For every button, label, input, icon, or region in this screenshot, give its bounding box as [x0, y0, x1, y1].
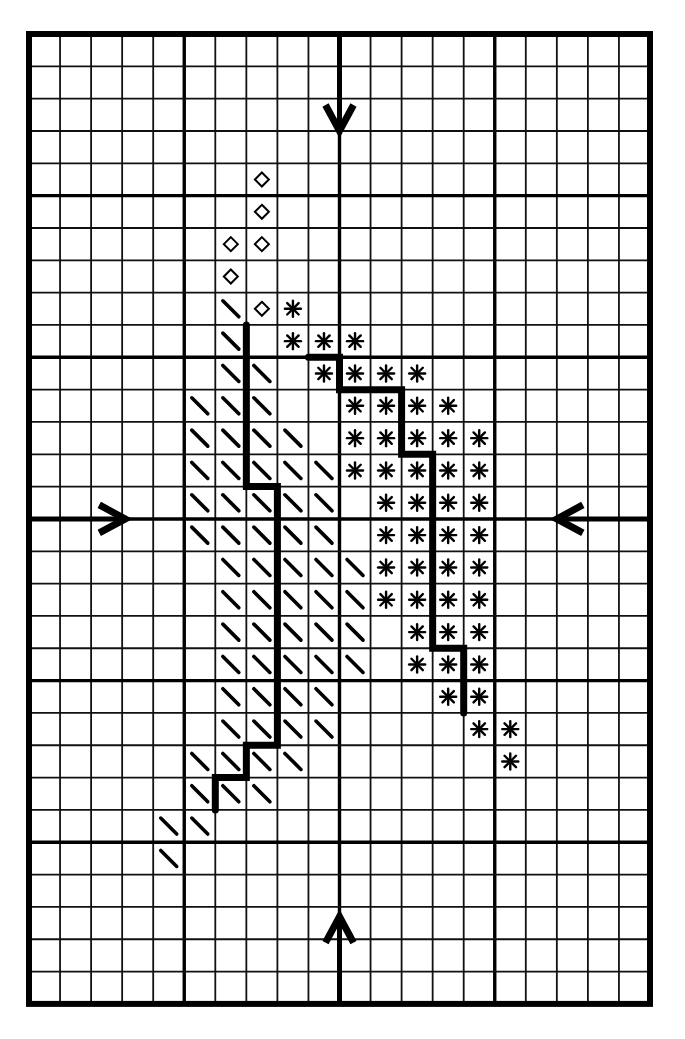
asterisk-stitch-icon [285, 333, 301, 349]
asterisk-stitch-icon [409, 495, 425, 511]
asterisk-stitch-icon [471, 592, 487, 608]
asterisk-stitch-icon [471, 656, 487, 672]
backslash-stitch-icon [223, 721, 239, 737]
backslash-stitch-icon [347, 559, 363, 575]
backslash-stitch-icon [223, 624, 239, 640]
asterisk-stitch-icon [378, 592, 394, 608]
asterisk-stitch-icon [471, 527, 487, 543]
backslash-stitch-icon [285, 527, 301, 543]
backslash-stitch-icon [223, 753, 239, 769]
backslash-stitch-icon [254, 559, 270, 575]
backslash-stitch-icon [254, 753, 270, 769]
backslash-stitch-icon [285, 559, 301, 575]
asterisk-stitch-icon [378, 365, 394, 381]
asterisk-stitch-icon [440, 656, 456, 672]
backslash-stitch-icon [316, 656, 332, 672]
asterisk-stitch-icon [409, 559, 425, 575]
backslash-stitch-icon [223, 592, 239, 608]
backslash-stitch-icon [192, 430, 208, 446]
asterisk-stitch-icon [409, 430, 425, 446]
backslash-stitch-icon [254, 786, 270, 802]
backslash-stitch-icon [254, 495, 270, 511]
asterisk-stitch-icon [378, 398, 394, 414]
backslash-stitch-icon [316, 559, 332, 575]
backslash-stitch-icon [192, 462, 208, 478]
asterisk-stitch-icon [440, 689, 456, 705]
asterisk-stitch-icon [347, 365, 363, 381]
backslash-stitch-icon [316, 689, 332, 705]
backslash-stitch-icon [254, 689, 270, 705]
asterisk-stitch-icon [347, 430, 363, 446]
diamond-stitch-icon [224, 269, 238, 283]
backslash-stitch-icon [223, 462, 239, 478]
asterisk-stitch-icon [285, 301, 301, 317]
backslash-stitch-icon [316, 721, 332, 737]
backslash-stitch-icon [285, 689, 301, 705]
asterisk-stitch-icon [471, 430, 487, 446]
asterisk-stitch-icon [471, 559, 487, 575]
backslash-stitch-icon [192, 398, 208, 414]
backslash-stitch-icon [254, 721, 270, 737]
asterisk-stitch-icon [440, 624, 456, 640]
asterisk-stitch-icon [409, 462, 425, 478]
asterisk-stitch-icon [409, 624, 425, 640]
asterisk-stitch-icon [502, 753, 518, 769]
backslash-stitch-icon [316, 592, 332, 608]
asterisk-stitch-icon [316, 333, 332, 349]
asterisk-stitch-icon [440, 592, 456, 608]
asterisk-stitch-icon [409, 656, 425, 672]
backslash-stitch-icon [254, 430, 270, 446]
asterisk-stitch-icon [471, 721, 487, 737]
backslash-stitch-icon [285, 624, 301, 640]
right-center-arrow-icon [557, 505, 650, 533]
backslash-stitch-icon [347, 656, 363, 672]
backslash-stitch-icon [223, 656, 239, 672]
backslash-stitch-icon [223, 786, 239, 802]
asterisk-stitch-icon [440, 495, 456, 511]
backslash-stitch-icon [285, 656, 301, 672]
backslash-stitch-icon [254, 656, 270, 672]
backslash-stitch-icon [316, 495, 332, 511]
asterisk-stitch-icon [378, 430, 394, 446]
backslash-stitch-icon [254, 398, 270, 414]
backslash-stitch-icon [316, 527, 332, 543]
backslash-stitch-icon [254, 527, 270, 543]
asterisk-stitch-icon [378, 462, 394, 478]
backslash-stitch-icon [192, 753, 208, 769]
asterisk-stitch-icon [471, 689, 487, 705]
diamond-stitch-icon [255, 302, 269, 316]
backslash-stitch-icon [254, 365, 270, 381]
diamond-stitch-icon [255, 172, 269, 186]
bottom-center-arrow-icon [326, 917, 354, 1004]
backslash-stitch-icon [223, 689, 239, 705]
asterisk-stitch-icon [409, 398, 425, 414]
asterisk-stitch-icon [316, 365, 332, 381]
asterisk-stitch-icon [347, 398, 363, 414]
backslash-stitch-icon [223, 333, 239, 349]
asterisk-stitch-icon [440, 462, 456, 478]
asterisk-stitch-icon [378, 495, 394, 511]
backslash-stitch-icon [347, 592, 363, 608]
asterisk-stitch-icon [409, 527, 425, 543]
backslash-stitch-icon [254, 462, 270, 478]
backslash-stitch-icon [285, 430, 301, 446]
asterisk-stitch-icon [440, 430, 456, 446]
backslash-stitch-icon [223, 559, 239, 575]
backslash-stitch-icon [192, 495, 208, 511]
asterisk-stitch-icon [409, 365, 425, 381]
asterisk-stitch-icon [440, 559, 456, 575]
diamond-stitch-icon [224, 237, 238, 251]
asterisk-stitch-icon [409, 592, 425, 608]
backslash-stitch-icon [223, 365, 239, 381]
diamond-stitch-icon [255, 205, 269, 219]
asterisk-stitch-icon [471, 462, 487, 478]
backslash-stitch-icon [161, 850, 177, 866]
asterisk-stitch-icon [378, 527, 394, 543]
backslash-stitch-icon [254, 624, 270, 640]
asterisk-stitch-icon [471, 495, 487, 511]
backslash-stitch-icon [316, 624, 332, 640]
backslash-stitch-icon [192, 527, 208, 543]
asterisk-stitch-icon [502, 721, 518, 737]
asterisk-stitch-icon [378, 559, 394, 575]
backslash-stitch-icon [161, 818, 177, 834]
